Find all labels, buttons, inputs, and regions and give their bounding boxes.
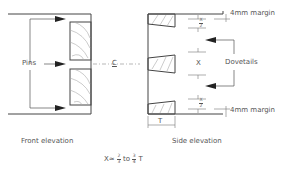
dovetails-label: Dovetails — [225, 59, 258, 66]
arrow-icon — [205, 83, 216, 89]
pins-arrows — [55, 16, 66, 111]
lower-pin-block — [70, 69, 91, 105]
pins-label: Pins — [22, 60, 36, 67]
dovetails-arrows — [205, 37, 216, 89]
x-half-bottom-label: X2 — [199, 98, 203, 108]
arrow-icon — [55, 16, 66, 22]
diagram-drawing — [0, 0, 284, 177]
upper-pin-block — [70, 22, 91, 60]
arrow-icon — [205, 37, 216, 43]
arrow-icon — [55, 61, 66, 67]
bottom-margin-label: 4mm margin — [230, 107, 275, 114]
front-end-grain-hatch — [70, 22, 90, 105]
x-half-top-label: X2 — [199, 18, 203, 28]
dovetail-bottom — [148, 101, 175, 114]
front-elevation-caption: Front elevation — [21, 138, 73, 145]
top-margin-label: 4mm margin — [230, 10, 275, 17]
side-elevation-caption: Side elevation — [172, 138, 222, 145]
side-elevation — [148, 11, 223, 114]
dovetail-top — [148, 14, 175, 27]
x-middle-label: X — [196, 60, 201, 67]
dovetail-middle — [148, 55, 175, 73]
arrow-icon — [55, 105, 66, 111]
pin-dovetail-diagram: Pins C Dovetails 4mm margin 4mm margin X… — [0, 0, 284, 177]
thickness-label: T — [158, 118, 162, 125]
centerline-label: C — [112, 60, 117, 67]
dovetail-hatch — [152, 15, 173, 113]
formula: X≈ 23 to 34 T — [104, 154, 143, 164]
